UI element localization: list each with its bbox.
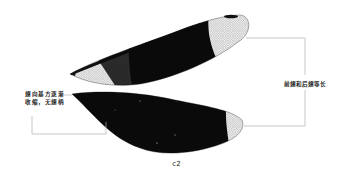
figure-caption: c2 <box>0 160 353 168</box>
pterostigma <box>224 15 238 19</box>
annotation-wing-base: 翅向基方逐渐收缩，无翅柄 <box>25 90 65 106</box>
hindwing <box>60 85 243 165</box>
right-bracket-top <box>246 38 305 75</box>
right-bracket-bottom <box>244 90 305 126</box>
wing-figure: 翅向基方逐渐收缩，无翅柄 前翅和后翅等长 c2 <box>0 0 353 179</box>
forewing <box>70 8 249 92</box>
left-bracket <box>32 116 106 134</box>
annotation-wing-length: 前翅和后翅等长 <box>284 80 344 88</box>
